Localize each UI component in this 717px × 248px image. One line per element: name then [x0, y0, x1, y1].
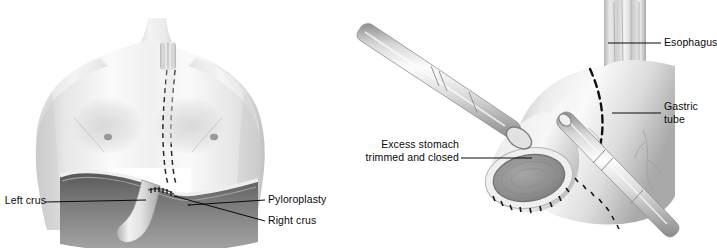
label-pyloroplasty: Pyloroplasty: [268, 193, 326, 206]
label-right-crus: Right crus: [268, 214, 316, 227]
gastric-tube-illustration: [343, 0, 686, 248]
label-gastric-tube-line2: tube: [664, 113, 685, 125]
label-excess-stomach-line2: trimmed and closed: [366, 151, 459, 163]
panel-gastric-tube: Esophagus Gastrictube Excess stomachtrim…: [343, 0, 686, 248]
label-excess-stomach-line1: Excess stomach: [381, 138, 459, 150]
instrument-upper: [357, 24, 536, 154]
torso-illustration: [0, 0, 343, 248]
nipple-left: [104, 134, 112, 140]
label-gastric-tube-line1: Gastric: [664, 100, 698, 112]
panel-torso: Left crus Pyloroplasty Right crus: [0, 0, 343, 248]
sternum-highlight: [168, 66, 171, 144]
label-left-crus: Left crus: [2, 194, 46, 207]
nipple-right: [210, 134, 218, 140]
label-esophagus: Esophagus: [664, 36, 717, 49]
